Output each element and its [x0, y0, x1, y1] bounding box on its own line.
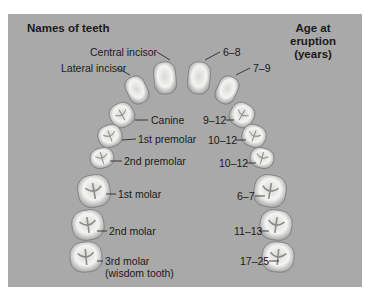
age-heading-line1: Age at eruption	[273, 22, 353, 48]
label-3rd-molar: 3rd molar (wisdom tooth)	[105, 255, 174, 279]
age-2nd-premolar: 10–12	[219, 157, 248, 169]
label-canine: Canine	[151, 114, 184, 126]
leader-line-left-central-incisor	[157, 52, 170, 60]
label-1st-molar: 1st molar	[118, 188, 161, 200]
age-lateral-incisor: 7–9	[253, 62, 271, 74]
label-2nd-premolar: 2nd premolar	[124, 155, 186, 167]
tooth-right-2nd-premolar	[248, 145, 276, 171]
label-3rd-molar-line2: (wisdom tooth)	[105, 267, 174, 279]
age-2nd-molar: 11–13	[234, 225, 262, 237]
age-1st-molar: 6–7	[237, 190, 255, 202]
tooth-right-2nd-molar	[258, 208, 294, 242]
tooth-right-1st-molar	[251, 172, 288, 209]
tooth-left-lateral-incisor	[122, 73, 152, 107]
tooth-left-2nd-premolar	[88, 145, 116, 171]
tooth-left-central-incisor	[153, 61, 178, 95]
tooth-left-2nd-molar	[70, 208, 106, 242]
tooth-right-lateral-incisor	[212, 73, 242, 107]
label-1st-premolar: 1st premolar	[138, 133, 196, 145]
tooth-left-3rd-molar	[69, 241, 103, 274]
leader-line-right-lateral-incisor	[236, 68, 250, 75]
tooth-right-central-incisor	[187, 61, 212, 95]
age-heading: Age at eruption (years)	[273, 22, 353, 61]
age-central-incisor: 6–8	[223, 46, 241, 58]
names-heading: Names of teeth	[27, 22, 109, 35]
label-lateral-incisor: Lateral incisor	[61, 62, 126, 74]
label-3rd-molar-line1: 3rd molar	[105, 255, 174, 267]
age-3rd-molar: 17–25	[240, 255, 269, 267]
leader-line-left-1st-premolar	[122, 139, 136, 140]
tooth-left-1st-molar	[75, 172, 112, 209]
label-2nd-molar: 2nd molar	[109, 225, 156, 237]
age-canine: 9–12	[203, 114, 226, 126]
leader-line-right-central-incisor	[205, 52, 220, 60]
age-1st-premolar: 10–12	[208, 134, 237, 146]
age-heading-line2: (years)	[273, 48, 353, 61]
label-central-incisor: Central incisor	[90, 46, 157, 58]
